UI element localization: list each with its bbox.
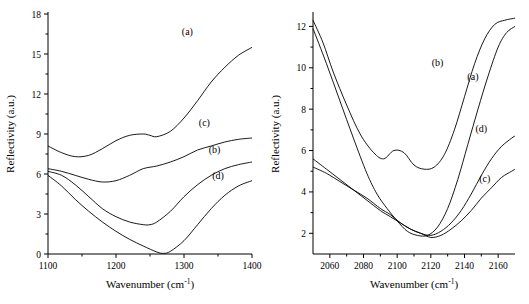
x-axis-label: Wavenumber (cm-1) (370, 277, 458, 291)
y-tick-label: 6 (301, 146, 306, 156)
series-label-a: (a) (182, 26, 193, 38)
series-curve-a (48, 47, 252, 157)
x-tick-label: 2120 (421, 261, 440, 271)
x-axis-label-base: Wavenumber (cm (106, 278, 185, 291)
y-tick-label: 8 (301, 105, 306, 115)
x-tick-label: 2140 (455, 261, 474, 271)
y-tick-label: 4 (301, 187, 306, 197)
series-label-d: (d) (212, 170, 224, 182)
x-tick-label: 2060 (320, 261, 339, 271)
chart-panel-right: 24681012206020802100212021402160Reflecti… (265, 0, 529, 304)
y-tick-label: 12 (32, 90, 42, 100)
series-label-c: (c) (479, 173, 490, 185)
y-tick-label: 18 (32, 10, 42, 20)
x-tick-label: 1200 (107, 261, 126, 271)
x-axis-label-tail: ) (454, 278, 458, 291)
y-tick-label: 3 (36, 210, 41, 220)
x-tick-label: 2100 (388, 261, 407, 271)
x-axis-label-base: Wavenumber (cm (370, 278, 449, 291)
x-tick-label: 2160 (489, 261, 508, 271)
x-tick-label: 2080 (354, 261, 373, 271)
y-tick-label: 0 (36, 250, 41, 260)
x-tick-label: 1300 (175, 261, 194, 271)
left-plot-svg: 03691215181100120013001400Reflectivity (… (0, 0, 265, 304)
x-tick-label: 1400 (243, 261, 262, 271)
x-tick-label: 1100 (39, 261, 58, 271)
series-label-b: (b) (432, 57, 444, 69)
figure-root: 03691215181100120013001400Reflectivity (… (0, 0, 529, 304)
y-tick-label: 10 (297, 63, 307, 73)
x-axis-label: Wavenumber (cm-1) (106, 277, 194, 291)
y-tick-label: 2 (301, 229, 306, 239)
y-axis-label: Reflectivity (a.u.) (4, 95, 17, 173)
series-label-c: (c) (199, 117, 210, 129)
y-axis-label: Reflectivity (a.u.) (269, 95, 282, 173)
series-label-b: (b) (209, 144, 221, 156)
x-axis-label-tail: ) (190, 278, 194, 291)
y-tick-label: 15 (32, 50, 42, 60)
y-tick-label: 9 (36, 130, 41, 140)
series-curve-d (313, 136, 515, 235)
y-tick-label: 6 (36, 170, 41, 180)
series-label-a: (a) (467, 71, 478, 83)
series-label-d: (d) (475, 123, 487, 135)
chart-panel-left: 03691215181100120013001400Reflectivity (… (0, 0, 265, 304)
y-tick-label: 12 (297, 22, 307, 32)
series-curve-b (313, 18, 515, 169)
right-plot-svg: 24681012206020802100212021402160Reflecti… (265, 0, 529, 304)
